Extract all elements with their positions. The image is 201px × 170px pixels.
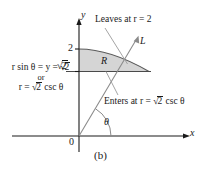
origin-label: 0	[69, 137, 74, 148]
boundary-left-line3-prefix: r =	[19, 82, 32, 92]
figure-caption: (b)	[0, 150, 201, 162]
region-shading	[79, 49, 149, 72]
sqrt-radicand: 2	[65, 62, 71, 73]
boundary-left-or: or	[4, 73, 78, 82]
boundary-left-line1-prefix: r sin θ = y =	[12, 62, 61, 72]
x-axis-arrowhead	[183, 133, 190, 138]
tick-label-2: 2	[68, 43, 73, 54]
x-axis-label: x	[190, 128, 194, 139]
boundary-left-line3: r = √2 csc θ	[19, 82, 64, 92]
region-label: R	[101, 56, 107, 67]
angle-theta-label: θ	[104, 117, 109, 128]
annotation-boundary-left: r sin θ = y = √2 or r = √2 csc θ	[4, 62, 78, 93]
annotation-enters-suffix: csc θ	[163, 96, 184, 106]
annotation-leaves: Leaves at r = 2	[95, 15, 152, 25]
leader-enters	[106, 72, 118, 96]
boundary-left-line3-suffix: csc θ	[42, 82, 63, 92]
annotation-enters-prefix: Enters at r =	[104, 96, 153, 106]
boundary-left-line1: r sin θ = y = √2	[12, 62, 71, 72]
y-axis-label: y	[81, 10, 85, 21]
annotation-enters: Enters at r = √2 csc θ	[104, 96, 185, 107]
ray-label: L	[140, 36, 146, 47]
polar-region-diagram: y x 0 2 √2 R L θ Leaves at r = 2 Enters …	[0, 0, 201, 170]
